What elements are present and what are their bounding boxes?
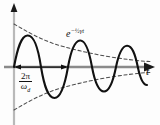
period-denominator-wrap: ωd (19, 82, 32, 93)
period-denominator-subscript: d (27, 87, 30, 93)
period-label: 2π ωd (19, 72, 32, 93)
envelope-label: e−½γt (66, 28, 84, 39)
lower-envelope-curve (14, 72, 150, 110)
t-axis-label: t (146, 66, 149, 77)
damped-oscillation-figure: ) t e−½γt 2π ωd (0, 0, 160, 125)
envelope-exponent: −½γt (70, 27, 84, 34)
plot-canvas (0, 0, 160, 125)
y-axis-arrowhead (11, 3, 18, 12)
